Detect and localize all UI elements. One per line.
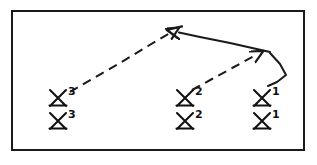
unit-symbol-1-top (254, 90, 271, 106)
unit-symbol-2-top (177, 90, 194, 106)
unit-symbol-3-bottom (50, 113, 67, 129)
arrow-from-unit-1 (179, 33, 270, 53)
unit-label-1-top: 1 (272, 86, 280, 97)
unit-label-3-bottom: 3 (68, 109, 76, 120)
unit-label-1-bottom: 1 (272, 109, 280, 120)
unit-symbol-1-bottom (254, 113, 271, 129)
unit-label-2-bottom: 2 (195, 109, 203, 120)
unit-label-2-top: 2 (195, 86, 203, 97)
unit-symbol-3-top (50, 90, 67, 106)
diagram-canvas: 3 3 2 2 1 1 (0, 0, 317, 165)
unit-symbol-2-bottom (177, 113, 194, 129)
unit-label-3-top: 3 (68, 86, 76, 97)
arrow-from-unit-3 (70, 33, 170, 92)
unit-1-hook-connector (268, 53, 286, 86)
diagram-drawing (0, 0, 317, 165)
